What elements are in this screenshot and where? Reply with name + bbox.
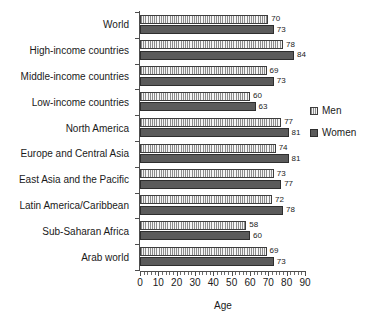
x-axis-major-tick [213, 272, 214, 276]
bar-women [140, 231, 250, 240]
bar-women [140, 25, 274, 34]
x-axis-tick-label: 90 [299, 277, 310, 289]
bar-men [140, 221, 246, 230]
x-axis-major-tick [232, 272, 233, 276]
x-axis-major-tick [177, 272, 178, 276]
bar-row: 60 [140, 92, 305, 101]
x-axis-minor-tick [217, 272, 218, 275]
bar-row: 77 [140, 180, 305, 189]
x-axis-minor-tick [239, 272, 240, 275]
x-axis-minor-tick [246, 272, 247, 275]
bar-value-label: 81 [289, 155, 301, 163]
bar-women [140, 206, 283, 215]
bar-row: 73 [140, 77, 305, 86]
x-axis-minor-tick [162, 272, 163, 275]
bar-row: 72 [140, 195, 305, 204]
x-axis-minor-tick [265, 272, 266, 275]
bar-row: 78 [140, 40, 305, 49]
category-label: Europe and Central Asia [0, 141, 134, 167]
bar-value-label: 73 [274, 26, 286, 34]
x-axis-major-tick [158, 272, 159, 276]
bar-row: 73 [140, 169, 305, 178]
x-axis-minor-tick [173, 272, 174, 275]
y-axis-tick [135, 218, 139, 219]
bar-row: 81 [140, 128, 305, 137]
y-axis-tick [135, 89, 139, 90]
category-axis-labels: WorldHigh-income countriesMiddle-income … [0, 12, 134, 270]
bar-women [140, 102, 256, 111]
x-axis-minor-tick [276, 272, 277, 275]
y-axis-tick [135, 64, 139, 65]
bar-women [140, 154, 289, 163]
bar-women [140, 128, 289, 137]
bar-row: 81 [140, 154, 305, 163]
x-axis-minor-tick [279, 272, 280, 275]
y-axis-tick [135, 167, 139, 168]
bar-value-label: 60 [250, 92, 262, 100]
bar-value-label: 78 [283, 41, 295, 49]
bar-value-label: 72 [272, 196, 284, 204]
category-label: High-income countries [0, 38, 134, 64]
bar-value-label: 73 [274, 258, 286, 266]
x-axis-tick-label: 40 [208, 277, 219, 289]
x-axis-tick-label: 10 [153, 277, 164, 289]
category-label: Sub-Saharan Africa [0, 218, 134, 244]
legend-label-women: Women [322, 127, 356, 138]
x-axis-minor-tick [144, 272, 145, 275]
category-label: World [0, 12, 134, 38]
legend-item-men: Men [310, 105, 372, 116]
x-axis-minor-tick [221, 272, 222, 275]
bar-men [140, 118, 281, 127]
bar-value-label: 74 [276, 144, 288, 152]
x-axis-minor-tick [169, 272, 170, 275]
bar-row: 73 [140, 257, 305, 266]
x-axis-minor-tick [206, 272, 207, 275]
bar-row: 84 [140, 51, 305, 60]
bar-women [140, 180, 281, 189]
bar-row: 70 [140, 15, 305, 24]
y-axis-tick [135, 141, 139, 142]
x-axis-minor-tick [254, 272, 255, 275]
x-axis-minor-tick [301, 272, 302, 275]
x-axis-tick-labels: 0102030405060708090 [120, 277, 340, 291]
bar-row: 60 [140, 231, 305, 240]
bar-men [140, 195, 272, 204]
legend-item-women: Women [310, 127, 372, 138]
x-axis-minor-tick [283, 272, 284, 275]
bar-value-label: 73 [274, 77, 286, 85]
x-axis-minor-tick [147, 272, 148, 275]
bar-group: 5860 [140, 221, 305, 241]
bar-group: 7377 [140, 169, 305, 189]
y-axis-tick [135, 193, 139, 194]
x-axis-minor-tick [184, 272, 185, 275]
bar-group: 7278 [140, 195, 305, 215]
y-axis-tick [135, 270, 139, 271]
bar-row: 69 [140, 66, 305, 75]
x-axis-tick-label: 80 [281, 277, 292, 289]
y-axis-tick [135, 115, 139, 116]
x-axis-minor-tick [224, 272, 225, 275]
x-axis-tick-label: 30 [189, 277, 200, 289]
bar-row: 74 [140, 144, 305, 153]
x-axis-tick-label: 0 [137, 277, 143, 289]
bar-row: 78 [140, 206, 305, 215]
x-axis-minor-tick [180, 272, 181, 275]
x-axis-major-tick [140, 272, 141, 276]
bar-row: 58 [140, 221, 305, 230]
x-axis-tick-label: 20 [171, 277, 182, 289]
bar-value-label: 69 [267, 67, 279, 75]
life-expectancy-bar-chart: WorldHigh-income countriesMiddle-income … [0, 0, 375, 328]
legend-swatch-men-icon [310, 107, 318, 115]
x-axis-minor-tick [155, 272, 156, 275]
bar-value-label: 69 [267, 247, 279, 255]
bar-men [140, 247, 267, 256]
x-axis-minor-tick [235, 272, 236, 275]
bar-men [140, 144, 276, 153]
bar-women [140, 257, 274, 266]
x-axis-major-tick [305, 272, 306, 276]
x-axis-minor-tick [151, 272, 152, 275]
bar-value-label: 73 [274, 170, 286, 178]
plot-area: 7073788469736063778174817377727858606973 [140, 12, 305, 270]
bar-row: 77 [140, 118, 305, 127]
category-label: Middle-income countries [0, 64, 134, 90]
